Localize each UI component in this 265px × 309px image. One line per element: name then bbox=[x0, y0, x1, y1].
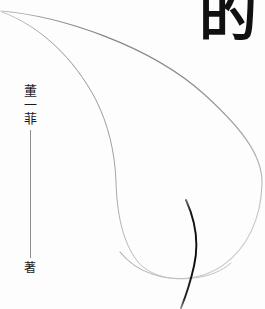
author-name: 董一菲 bbox=[22, 84, 37, 126]
brush-stroke bbox=[181, 200, 196, 308]
cover-title-character: 的 bbox=[199, 0, 257, 44]
author-divider-rule bbox=[30, 130, 31, 258]
book-cover: 的 董一菲 著 bbox=[0, 0, 265, 309]
author-role-label: 著 bbox=[24, 262, 36, 274]
author-credit-block: 董一菲 著 bbox=[18, 84, 42, 274]
